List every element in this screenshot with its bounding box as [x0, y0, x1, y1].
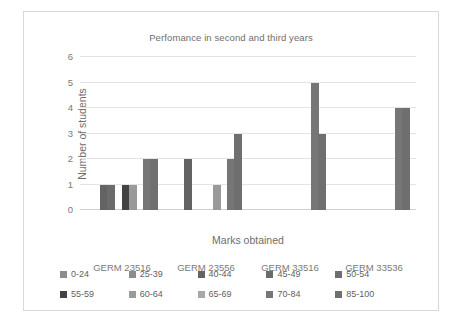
y-axis-tick-label: 6	[68, 51, 73, 62]
legend-item-label: 40-44	[209, 269, 232, 279]
legend-item-label: 70-84	[277, 289, 300, 299]
chart-container: Perfomance in second and third years Num…	[23, 11, 439, 311]
legend-item-label: 50-54	[346, 269, 369, 279]
bar	[402, 108, 410, 210]
legend-swatch-icon	[129, 271, 136, 278]
legend-swatch-icon	[198, 291, 205, 298]
gridline: 2	[80, 158, 416, 159]
legend-swatch-icon	[335, 271, 342, 278]
y-axis-tick-label: 2	[68, 153, 73, 164]
legend-swatch-icon	[266, 291, 273, 298]
bar	[129, 185, 137, 211]
bar	[150, 159, 158, 210]
legend-swatch-icon	[60, 291, 67, 298]
y-axis-tick-label: 5	[68, 76, 73, 87]
legend-swatch-icon	[198, 271, 205, 278]
legend-item-label: 60-64	[140, 289, 163, 299]
legend-item-85-100[interactable]: 85-100	[335, 289, 404, 299]
gridline: 5	[80, 82, 416, 83]
chart-title: Perfomance in second and third years	[24, 32, 438, 43]
bar	[107, 185, 115, 211]
x-axis-title: Marks obtained	[80, 234, 416, 246]
y-axis-tick-label: 0	[68, 204, 73, 215]
legend-item-label: 55-59	[71, 289, 94, 299]
legend-item-45-49[interactable]: 45-49	[266, 269, 335, 279]
legend-item-55-59[interactable]: 55-59	[60, 289, 129, 299]
bar	[318, 134, 326, 211]
bar	[184, 159, 192, 210]
legend-item-label: 85-100	[346, 289, 374, 299]
chart-legend: 0-2425-3940-4445-4950-5455-5960-6465-697…	[60, 264, 404, 304]
gridline: 4	[80, 107, 416, 108]
y-axis-tick-label: 1	[68, 178, 73, 189]
legend-item-label: 65-69	[209, 289, 232, 299]
legend-item-label: 25-39	[140, 269, 163, 279]
legend-swatch-icon	[129, 291, 136, 298]
legend-item-label: 0-24	[71, 269, 89, 279]
y-axis-tick-label: 4	[68, 102, 73, 113]
plot-area: 0123456GERM 23516GERM 23556GERM 33516GER…	[80, 57, 416, 210]
gridline: 6	[80, 56, 416, 57]
legend-item-25-39[interactable]: 25-39	[129, 269, 198, 279]
legend-item-50-54[interactable]: 50-54	[335, 269, 404, 279]
legend-swatch-icon	[60, 271, 67, 278]
y-axis-tick-label: 3	[68, 127, 73, 138]
legend-swatch-icon	[266, 271, 273, 278]
legend-item-65-69[interactable]: 65-69	[198, 289, 267, 299]
bar	[234, 134, 242, 211]
gridline: 3	[80, 133, 416, 134]
legend-row: 0-2425-3940-4445-4950-54	[60, 264, 404, 284]
legend-item-label: 45-49	[277, 269, 300, 279]
legend-swatch-icon	[335, 291, 342, 298]
legend-row: 55-5960-6465-6970-8485-100	[60, 284, 404, 304]
legend-item-0-24[interactable]: 0-24	[60, 269, 129, 279]
legend-item-70-84[interactable]: 70-84	[266, 289, 335, 299]
legend-item-60-64[interactable]: 60-64	[129, 289, 198, 299]
legend-item-40-44[interactable]: 40-44	[198, 269, 267, 279]
bar	[213, 185, 221, 211]
